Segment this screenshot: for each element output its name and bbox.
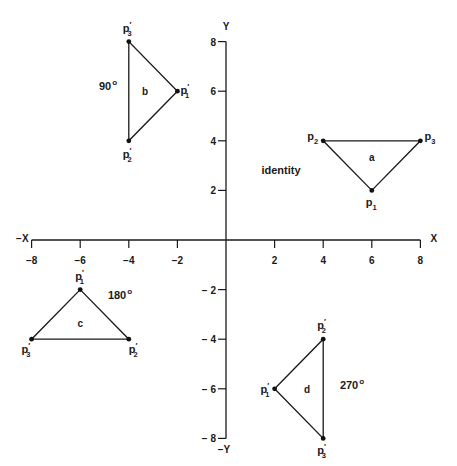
vertex-point xyxy=(175,89,180,94)
triangle-outline xyxy=(323,141,420,191)
y-tick-label: 8 xyxy=(210,37,216,48)
vertex-label: p′2 xyxy=(129,341,138,359)
vertex-point xyxy=(321,337,326,342)
vertex-label: p′3 xyxy=(317,442,326,460)
triangle-outline xyxy=(129,42,178,141)
vertex-label: p′3 xyxy=(123,20,132,38)
x-tick-label: 2 xyxy=(272,255,278,266)
vertex-point xyxy=(78,287,83,292)
triangle-label: c xyxy=(77,318,83,329)
x-axis-label: X xyxy=(430,233,437,244)
rotation-diagram: −8−6−4−224688642− 2− 4− 6− 8X−XY−Y ap1p2… xyxy=(0,0,457,466)
y-tick-label: − 8 xyxy=(202,433,217,444)
triangle-label: d xyxy=(304,384,310,395)
vertex-point xyxy=(126,337,131,342)
triangle-a: ap1p2p3identity xyxy=(261,130,435,213)
triangle-d: dp′1p′2p′3270o xyxy=(261,317,365,460)
vertex-point xyxy=(369,188,374,193)
vertex-point xyxy=(126,39,131,44)
y-tick-label: − 6 xyxy=(202,384,217,395)
rotation-annotation: identity xyxy=(261,164,301,176)
y-axis-label: Y xyxy=(223,21,230,32)
vertex-point xyxy=(418,138,423,143)
x-tick-label: −8 xyxy=(26,255,38,266)
x-tick-label: 6 xyxy=(369,255,375,266)
y-tick-label: 4 xyxy=(210,136,216,147)
rotation-annotation: 180o xyxy=(108,287,132,301)
vertex-point xyxy=(321,138,326,143)
y-tick-label: 2 xyxy=(210,185,216,196)
vertex-label: p1 xyxy=(366,196,377,212)
x-tick-label: 8 xyxy=(418,255,424,266)
vertex-label: p3 xyxy=(424,130,435,146)
triangle-label: a xyxy=(369,152,375,163)
y-tick-label: 6 xyxy=(210,86,216,97)
x-axis-negative-label: −X xyxy=(16,233,29,244)
vertex-label: p′1 xyxy=(75,268,84,286)
x-tick-label: −6 xyxy=(74,255,86,266)
x-tick-label: −2 xyxy=(172,255,184,266)
triangle-c: cp′1p′2p′3180o xyxy=(22,268,138,360)
vertex-point xyxy=(321,436,326,441)
vertex-point xyxy=(272,386,277,391)
x-tick-label: −4 xyxy=(123,255,135,266)
vertex-label: p′1 xyxy=(261,381,270,399)
rotation-annotation: 90o xyxy=(99,78,117,92)
y-tick-label: − 4 xyxy=(202,334,217,345)
y-axis-negative-label: −Y xyxy=(218,444,231,455)
axes: −8−6−4−224688642− 2− 4− 6− 8X−XY−Y xyxy=(16,21,437,456)
vertex-point xyxy=(126,138,131,143)
vertex-label: p′2 xyxy=(317,317,326,335)
y-tick-label: − 2 xyxy=(202,285,217,296)
triangle-label: b xyxy=(142,86,148,97)
x-tick-label: 4 xyxy=(320,255,326,266)
triangle-b: bp′1p′2p′390o xyxy=(99,20,189,164)
vertex-label: p′2 xyxy=(123,146,132,164)
vertex-label: p′1 xyxy=(180,82,189,100)
triangle-outline xyxy=(275,339,324,438)
rotation-annotation: 270o xyxy=(340,377,364,391)
vertex-label: p2 xyxy=(307,130,318,146)
vertex-label: p′3 xyxy=(22,341,31,359)
